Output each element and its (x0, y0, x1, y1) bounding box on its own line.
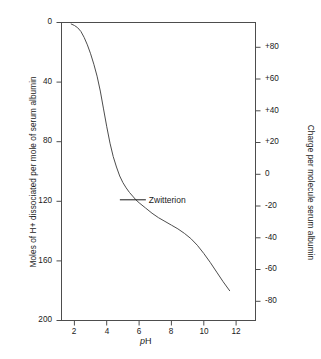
x-tick-label: 12 (226, 327, 246, 336)
y-right-tick-label: 0 (265, 169, 291, 178)
titration-chart-figure: Moles of H+ dissociated per mole of seru… (0, 0, 321, 359)
y-right-tick-label: -40 (265, 233, 291, 242)
y-right-tick-label: +40 (265, 106, 291, 115)
plot-canvas (0, 0, 321, 359)
y-left-tick-label: 0 (26, 17, 52, 26)
y-axis-right-title: Charge per molecule serum albumin (306, 98, 315, 288)
x-tick-label: 6 (129, 327, 149, 336)
x-tick-label: 2 (64, 327, 84, 336)
y-left-tick-label: 160 (26, 256, 52, 265)
y-right-ticks (256, 47, 261, 301)
y-left-tick-label: 120 (26, 196, 52, 205)
x-tick-label: 10 (194, 327, 214, 336)
y-left-tick-label: 40 (26, 77, 52, 86)
y-left-ticks (57, 23, 62, 321)
zwitterion-annotation-label: Zwitterion (149, 195, 186, 205)
x-ticks (74, 321, 236, 326)
y-left-tick-label: 80 (26, 136, 52, 145)
plot-frame (62, 23, 256, 321)
x-axis-title: pH (140, 336, 152, 346)
titration-curve (71, 24, 229, 291)
x-axis-title-h: H (145, 336, 152, 346)
y-right-tick-label: +20 (265, 137, 291, 146)
y-left-tick-label: 200 (26, 315, 52, 324)
y-axis-left-title: Moles of H+ dissociated per mole of seru… (29, 78, 38, 268)
y-right-tick-label: +80 (265, 42, 291, 51)
y-right-tick-label: +60 (265, 74, 291, 83)
y-right-tick-label: -60 (265, 264, 291, 273)
y-right-tick-label: -20 (265, 201, 291, 210)
x-tick-label: 4 (97, 327, 117, 336)
y-right-tick-label: -80 (265, 296, 291, 305)
x-tick-label: 8 (161, 327, 181, 336)
